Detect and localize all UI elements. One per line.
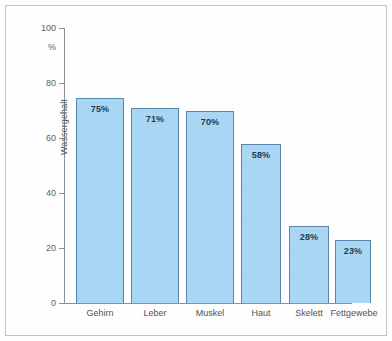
y-tick-label-80: 80: [16, 79, 56, 88]
x-axis-line: [64, 303, 352, 304]
bar-value-skelett: 28%: [290, 232, 328, 242]
y-tick-label-40: 40: [16, 189, 56, 198]
chart-figure: 100 80 60 40 20 0 % Wassergehalt 75% 71%…: [0, 0, 392, 341]
bar-value-leber: 71%: [132, 114, 178, 124]
x-label-haut: Haut: [237, 308, 285, 318]
y-axis-title: Wassergehalt: [59, 77, 69, 177]
y-axis-unit-label: %: [16, 43, 56, 52]
y-tick-label-0: 0: [16, 299, 56, 308]
bar-gehirn[interactable]: 75%: [76, 98, 124, 303]
bar-muskel[interactable]: 70%: [186, 111, 234, 304]
bar-chart-plot: 100 80 60 40 20 0 % Wassergehalt 75% 71%…: [0, 0, 392, 341]
y-tick-label-60: 60: [16, 134, 56, 143]
bar-value-muskel: 70%: [187, 117, 233, 127]
y-tick-label-100: 100: [16, 24, 56, 33]
y-tick-40: [59, 193, 64, 194]
bar-fettgewebe[interactable]: 23%: [335, 240, 371, 303]
y-tick-100: [59, 28, 64, 29]
x-label-fettgewebe: Fettgewebe: [328, 308, 380, 318]
bar-skelett[interactable]: 28%: [289, 226, 329, 303]
x-label-skelett: Skelett: [285, 308, 333, 318]
y-tick-20: [59, 248, 64, 249]
x-label-muskel: Muskel: [184, 308, 236, 318]
y-tick-0: [59, 303, 64, 304]
x-label-gehirn: Gehirn: [74, 308, 126, 318]
bar-haut[interactable]: 58%: [241, 144, 281, 304]
x-label-leber: Leber: [129, 308, 181, 318]
y-tick-label-20: 20: [16, 244, 56, 253]
bar-value-haut: 58%: [242, 150, 280, 160]
bar-leber[interactable]: 71%: [131, 108, 179, 303]
bar-value-fettgewebe: 23%: [336, 246, 370, 256]
bar-value-gehirn: 75%: [77, 104, 123, 114]
